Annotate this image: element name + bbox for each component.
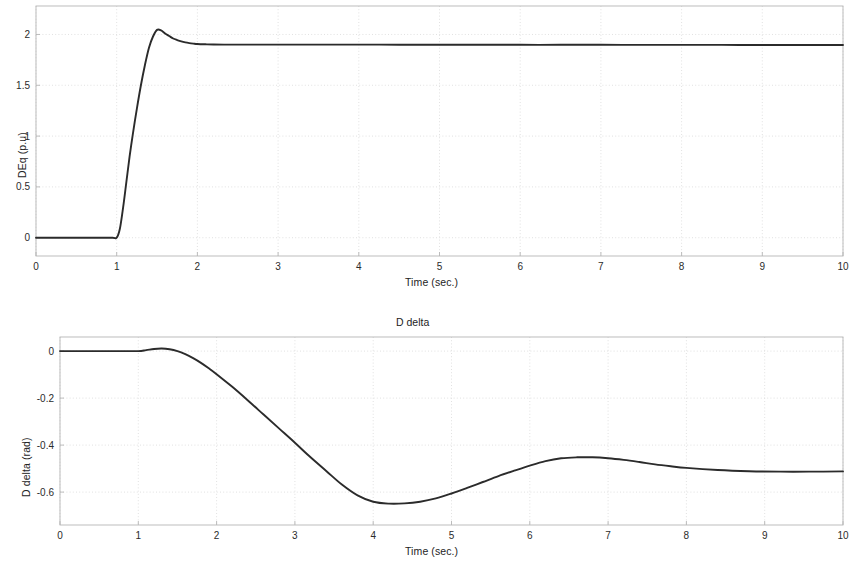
x-tick-label: 1 (114, 261, 120, 272)
x-tick-label: 0 (33, 261, 39, 272)
ddelta-chart-title: D delta (396, 316, 429, 328)
x-tick-label: 6 (517, 261, 523, 272)
y-tick-label: 0 (48, 346, 54, 357)
x-tick-label: 1 (136, 530, 142, 541)
data-series-line (60, 349, 843, 504)
plot-frame (60, 337, 843, 525)
x-tick-label: 9 (760, 261, 766, 272)
figure-canvas: 01234567891000.511.52 DEq (p.u) Time (se… (0, 0, 853, 570)
deq-plot-panel: 01234567891000.511.52 DEq (p.u) Time (se… (0, 0, 853, 305)
ddelta-plot-svg: 0123456789100-0.2-0.4-0.6 (0, 305, 853, 570)
ddelta-y-axis-label: D delta (rad) (20, 437, 32, 497)
x-tick-label: 3 (292, 530, 298, 541)
x-tick-label: 7 (598, 261, 604, 272)
x-tick-label: 0 (57, 530, 63, 541)
x-tick-label: 7 (605, 530, 611, 541)
x-tick-label: 8 (684, 530, 690, 541)
y-tick-label: 1.5 (16, 80, 30, 91)
deq-x-axis-label: Time (sec.) (405, 276, 458, 288)
x-tick-label: 2 (195, 261, 201, 272)
x-tick-label: 3 (275, 261, 281, 272)
x-tick-label: 10 (837, 530, 849, 541)
x-tick-label: 4 (356, 261, 362, 272)
y-tick-label: -0.6 (37, 487, 55, 498)
y-tick-label: 0 (24, 232, 30, 243)
x-tick-label: 9 (762, 530, 768, 541)
deq-y-axis-label: DEq (p.u) (16, 132, 28, 178)
x-tick-label: 10 (837, 261, 849, 272)
y-tick-label: 0.5 (16, 181, 30, 192)
ddelta-x-axis-label: Time (sec.) (405, 545, 458, 557)
x-tick-label: 5 (437, 261, 443, 272)
y-tick-label: 2 (24, 29, 30, 40)
deq-plot-svg: 01234567891000.511.52 (0, 0, 853, 305)
ddelta-plot-panel: D delta 0123456789100-0.2-0.4-0.6 D delt… (0, 305, 853, 570)
x-tick-label: 6 (527, 530, 533, 541)
x-tick-label: 8 (679, 261, 685, 272)
y-tick-label: -0.2 (37, 393, 55, 404)
y-tick-label: -0.4 (37, 440, 55, 451)
x-tick-label: 2 (214, 530, 220, 541)
x-tick-label: 4 (370, 530, 376, 541)
x-tick-label: 5 (449, 530, 455, 541)
